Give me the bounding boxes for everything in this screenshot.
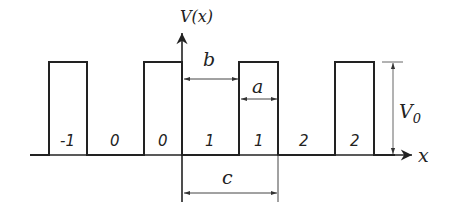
cell-index-label: 1 <box>205 132 215 150</box>
cell-index-label: 0 <box>110 132 120 150</box>
v0-label: V0 <box>399 100 421 126</box>
x-axis-label: x <box>418 144 429 166</box>
cell-index-label: -1 <box>60 132 75 150</box>
b-label: b <box>203 48 215 70</box>
cell-index-label: 2 <box>299 132 309 150</box>
c-label: c <box>222 166 233 188</box>
cell-index-label: 1 <box>254 132 264 150</box>
cell-index-label: 0 <box>158 132 168 150</box>
v-axis-label: V(x) <box>180 7 213 26</box>
a-label: a <box>252 75 263 97</box>
cell-index-label: 2 <box>350 132 360 150</box>
potential-diagram: b a c V0 V(x) x -1 0 0 1 1 2 2 <box>0 0 454 214</box>
